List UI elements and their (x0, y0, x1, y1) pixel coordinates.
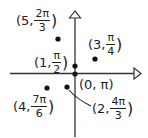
denominator: 3 (39, 21, 46, 33)
numerator: 7π (31, 94, 47, 107)
close-paren: ) (48, 99, 54, 115)
close-paren: ) (116, 37, 122, 53)
label-text: (3, (88, 38, 105, 51)
label-4-7pi-6: (4, 7π6 ) (13, 94, 54, 119)
point-5-2pi-3 (55, 36, 60, 41)
label-2-4pi-3: (2, 4π3 ) (92, 96, 133, 121)
numerator: 4π (110, 96, 126, 109)
numerator: π (52, 50, 61, 63)
leader-line (69, 90, 91, 106)
label-3-pi-4: (3, π4 ) (88, 32, 122, 57)
label-text: (4, (13, 100, 30, 113)
point-4-7pi-6 (44, 85, 49, 90)
label-text: (5, (16, 14, 33, 27)
denominator: 2 (53, 63, 60, 75)
label-text: (0, π) (79, 78, 114, 91)
horizontal-axis-arrow-icon (134, 68, 141, 79)
label-1-pi-2: (1, π2 ) (34, 50, 68, 75)
denominator: 4 (107, 45, 114, 57)
close-paren: ) (51, 13, 57, 29)
label-0-pi: (0, π) (79, 78, 114, 91)
vertical-axis-arrow-icon (70, 11, 81, 18)
point-0-pi (72, 71, 77, 76)
numerator: π (106, 32, 115, 45)
point-3-pi-4 (92, 56, 97, 61)
label-text: (1, (34, 56, 51, 69)
point-1-pi-2 (72, 63, 77, 68)
fraction: 4π3 (110, 96, 126, 121)
fraction: π4 (106, 32, 115, 57)
close-paren: ) (127, 101, 133, 117)
fraction: 2π3 (34, 8, 50, 33)
point-2-4pi-3 (64, 84, 69, 89)
denominator: 3 (115, 109, 122, 121)
denominator: 6 (36, 107, 43, 119)
numerator: 2π (34, 8, 50, 21)
label-5-2pi-3: (5, 2π3 ) (16, 8, 57, 33)
label-text: (2, (92, 102, 109, 115)
close-paren: ) (62, 55, 68, 71)
fraction: 7π6 (31, 94, 47, 119)
fraction: π2 (52, 50, 61, 75)
